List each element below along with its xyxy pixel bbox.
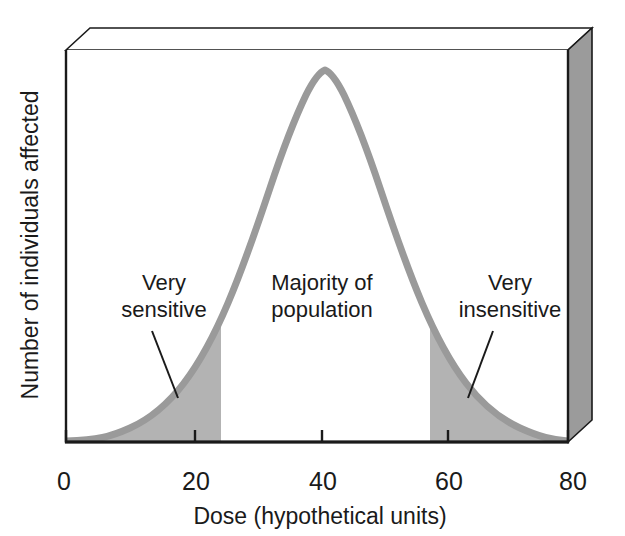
x-tick-label-60: 60 — [435, 467, 463, 495]
annotation-very-insensitive-line2: insensitive — [459, 297, 562, 322]
dose-response-chart: 0 20 40 60 80 Dose (hypothetical units) … — [0, 0, 625, 536]
annotation-very-sensitive-line2: sensitive — [121, 297, 207, 322]
box-top-face — [66, 28, 592, 50]
annotation-very-sensitive-line1: Very — [142, 270, 186, 295]
x-axis-title: Dose (hypothetical units) — [193, 503, 446, 529]
x-tick-label-20: 20 — [182, 467, 210, 495]
x-tick-label-0: 0 — [57, 467, 71, 495]
annotation-very-insensitive-line1: Very — [488, 270, 532, 295]
box-right-face — [568, 28, 592, 442]
x-tick-label-40: 40 — [309, 467, 337, 495]
annotation-majority-line1: Majority of — [271, 270, 373, 295]
figure-root: 0 20 40 60 80 Dose (hypothetical units) … — [0, 0, 625, 536]
annotation-majority-line2: population — [271, 297, 373, 322]
x-tick-label-80: 80 — [559, 467, 587, 495]
plot-area-front-face — [66, 50, 568, 442]
y-axis-title: Number of individuals affected — [17, 91, 43, 400]
